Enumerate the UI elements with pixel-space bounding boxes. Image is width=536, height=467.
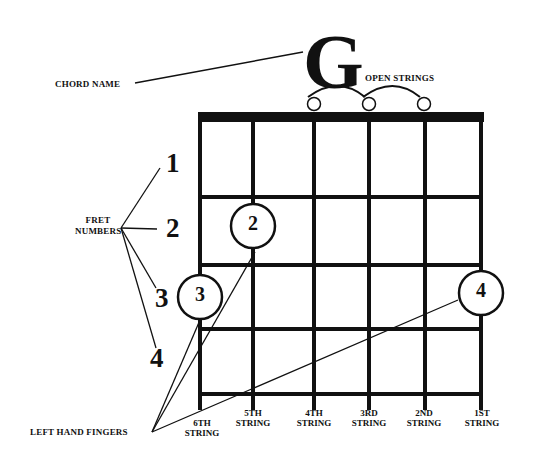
fret-bracket — [121, 168, 160, 348]
string-label-5: 5THSTRING — [223, 408, 283, 428]
chord-name-label: CHORD NAME — [55, 79, 120, 89]
finger-4: 4 — [466, 279, 496, 302]
string-label-4: 4THSTRING — [284, 408, 344, 428]
open-arc — [363, 86, 420, 97]
fret-number-3: 3 — [155, 283, 169, 314]
string-label-1: 1STSTRING — [452, 408, 512, 428]
nut — [198, 112, 484, 122]
finger-3: 3 — [185, 283, 215, 306]
chord-pointer — [135, 52, 303, 83]
string-label-2: 2NDSTRING — [394, 408, 454, 428]
left-hand-fingers-label: LEFT HAND FINGERS — [30, 427, 128, 437]
fret-numbers-label: FRET NUMBERS — [75, 215, 115, 237]
finger-2: 2 — [238, 212, 268, 235]
open-strings-label: OPEN STRINGS — [365, 73, 434, 83]
chord-name: G — [303, 23, 364, 101]
fret-number-4: 4 — [150, 343, 164, 374]
fret-number-2: 2 — [166, 213, 180, 244]
string-label-3: 3RDSTRING — [339, 408, 399, 428]
fret-number-1: 1 — [166, 148, 180, 179]
